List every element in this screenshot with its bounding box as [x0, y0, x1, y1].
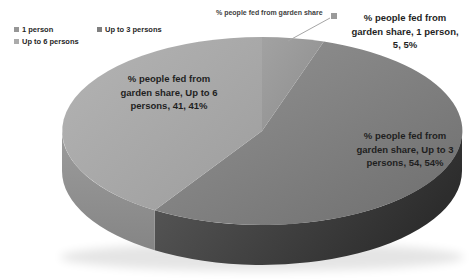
data-label-up-to-6-persons[interactable]: % people fed from garden share, Up to 6 …: [104, 72, 234, 113]
pie-chart: 1 person Up to 3 persons Up to 6 persons…: [0, 0, 473, 280]
data-label-1-person[interactable]: % people fed from garden share, 1 person…: [340, 11, 470, 52]
data-label-line: garden share, Up to 3: [340, 143, 470, 157]
data-label-line: garden share, Up to 6: [104, 86, 234, 100]
chart-title: % people fed from garden share: [216, 9, 323, 16]
data-label-line: % people fed from: [104, 72, 234, 86]
legend-item-up-to-3-persons[interactable]: Up to 3 persons: [97, 25, 162, 34]
legend-item-label: 1 person: [22, 25, 53, 34]
legend-key-swatch: [14, 27, 19, 32]
data-label-key-swatch: [331, 13, 337, 19]
data-label-line: persons, 54, 54%: [340, 156, 470, 170]
data-label-legend-key-icon: [331, 13, 337, 19]
legend-key-icon: [14, 27, 19, 32]
legend-item-up-to-6-persons[interactable]: Up to 6 persons: [14, 37, 79, 46]
data-label-up-to-3-persons[interactable]: % people fed from garden share, Up to 3 …: [340, 129, 470, 170]
legend-key-swatch: [97, 27, 102, 32]
legend-item-label: Up to 3 persons: [105, 25, 162, 34]
legend-item-label: Up to 6 persons: [22, 37, 79, 46]
data-label-line: % people fed from: [340, 11, 470, 25]
data-label-line: % people fed from: [340, 129, 470, 143]
legend-key-icon: [97, 27, 102, 32]
legend-item-1-person[interactable]: 1 person: [14, 25, 53, 34]
data-label-line: garden share, 1 person,: [340, 25, 470, 39]
data-label-line: persons, 41, 41%: [104, 99, 234, 113]
legend-key-icon: [14, 39, 19, 44]
data-label-line: 5, 5%: [340, 38, 470, 52]
legend-key-swatch: [14, 39, 19, 44]
